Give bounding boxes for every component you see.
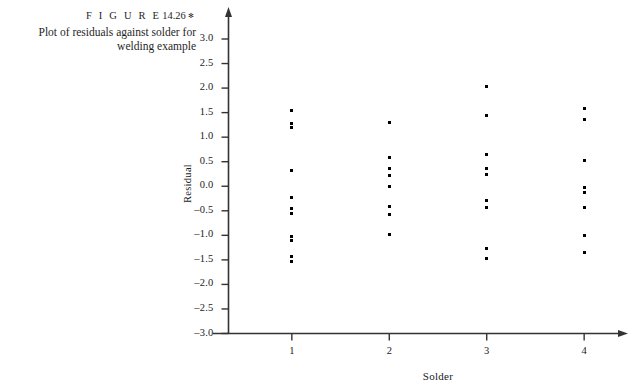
data-point [583, 159, 586, 162]
y-tick-label: –2.5 [180, 302, 214, 313]
data-point [388, 156, 391, 159]
y-axis-arrowhead [225, 7, 232, 17]
data-point [388, 213, 391, 216]
data-point [485, 173, 488, 176]
data-point [485, 257, 488, 260]
x-tick-label: 1 [282, 345, 302, 356]
data-point [290, 122, 293, 125]
y-tick-label: 2.5 [180, 57, 214, 68]
y-tick-label: 1.0 [180, 130, 214, 141]
data-point [583, 118, 586, 121]
data-point [485, 199, 488, 202]
data-point [290, 126, 293, 129]
x-tick-label: 4 [574, 345, 594, 356]
data-point [290, 109, 293, 112]
x-axis-title: Solder [378, 370, 498, 382]
y-axis-ticks [222, 39, 229, 334]
data-point [485, 114, 488, 117]
y-axis-title: Residual [181, 144, 192, 224]
plot-axes-svg [0, 0, 643, 389]
data-point [290, 260, 293, 263]
y-tick-label: –3.0 [180, 327, 214, 338]
data-point [485, 247, 488, 250]
data-point [290, 235, 293, 238]
data-point [583, 191, 586, 194]
y-tick-label: –2.0 [180, 277, 214, 288]
data-point [485, 167, 488, 170]
data-point [583, 186, 586, 189]
data-point [583, 234, 586, 237]
y-tick-label: –1.0 [180, 228, 214, 239]
scatter-plot: 3.02.52.01.51.00.50.0–0.5–1.0–1.5–2.0–2.… [0, 0, 643, 389]
data-point [485, 206, 488, 209]
data-point [388, 167, 391, 170]
data-point [290, 212, 293, 215]
data-point [388, 205, 391, 208]
y-tick-label: 2.0 [180, 81, 214, 92]
x-tick-label: 2 [379, 345, 399, 356]
x-tick-label: 3 [477, 345, 497, 356]
data-point [583, 107, 586, 110]
x-axis-arrowhead [618, 330, 628, 337]
data-point [290, 255, 293, 258]
y-tick-label: 3.0 [180, 32, 214, 43]
data-point [485, 85, 488, 88]
data-point [388, 121, 391, 124]
data-point [388, 185, 391, 188]
data-point [290, 169, 293, 172]
data-point [290, 196, 293, 199]
data-point [388, 233, 391, 236]
data-point [485, 153, 488, 156]
x-axis-ticks [292, 334, 584, 341]
data-point [290, 239, 293, 242]
y-tick-label: –1.5 [180, 253, 214, 264]
y-tick-label: 1.5 [180, 106, 214, 117]
data-point [583, 251, 586, 254]
data-point [388, 174, 391, 177]
data-point [583, 206, 586, 209]
data-point [290, 207, 293, 210]
